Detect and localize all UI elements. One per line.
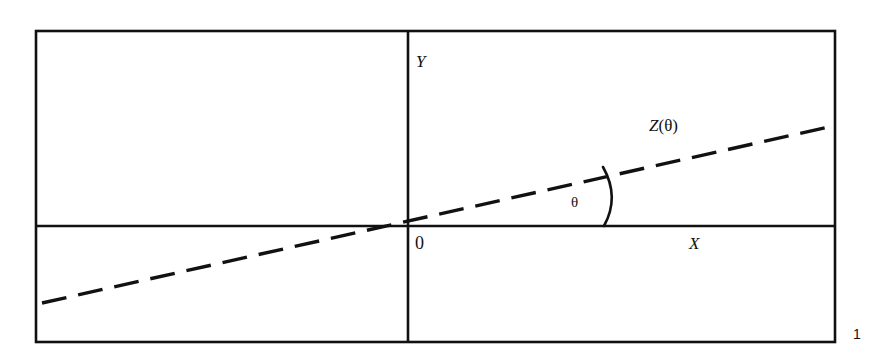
theta-angle-label: θ [571, 194, 578, 210]
origin-label: 0 [415, 233, 424, 253]
figure-number: 1 [853, 326, 861, 342]
z-theta-label-symbol: θ [664, 116, 672, 135]
x-axis-label: X [688, 234, 700, 253]
z-theta-dashed-line [42, 126, 833, 303]
coordinate-diagram: Y X 0 θ Z(θ) 1 [0, 0, 881, 361]
z-theta-label-paren-close: ) [672, 116, 678, 135]
z-theta-label: Z(θ) [649, 116, 678, 135]
figure-container: Y X 0 θ Z(θ) 1 [0, 0, 881, 361]
y-axis-label: Y [416, 52, 427, 71]
bounding-box [36, 31, 835, 342]
